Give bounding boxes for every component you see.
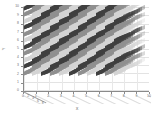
x-axis-tick-label: 8	[119, 95, 128, 98]
y-axis-tick-label: 1	[10, 81, 19, 84]
x-axis-title: X	[0, 107, 154, 111]
y-axis-tick-label: 9	[10, 14, 19, 17]
x-axis-tick-label: 3	[56, 95, 65, 98]
y-axis-tick	[21, 7, 23, 8]
x-axis-tick-label: 4	[69, 95, 78, 98]
x-axis-tick-label: 10	[145, 95, 154, 98]
depth-axis-tick-label: 8	[38, 102, 47, 105]
y-axis-tick-label: 7	[10, 31, 19, 34]
y-axis-tick	[21, 57, 23, 58]
y-axis-tick	[21, 32, 23, 33]
x-axis-tick-label: 6	[94, 95, 103, 98]
y-axis-tick-label: 0	[10, 89, 19, 92]
x-axis-tick-label: 5	[82, 95, 91, 98]
figure-canvas: 0123456789100123456789102468 X Y	[0, 0, 154, 117]
y-axis-tick	[21, 49, 23, 50]
y-axis-line	[23, 7, 24, 91]
x-axis-tick-label: 9	[132, 95, 141, 98]
y-axis-tick-label: 6	[10, 39, 19, 42]
y-axis-title: Y	[2, 42, 6, 56]
y-axis-tick-label: 2	[10, 73, 19, 76]
y-axis-tick	[21, 41, 23, 42]
y-axis-tick-label: 3	[10, 64, 19, 67]
x-axis-tick-label: 7	[107, 95, 116, 98]
y-axis-tick	[21, 83, 23, 84]
y-axis-tick-label: 4	[10, 56, 19, 59]
bar-3d	[23, 69, 30, 76]
y-axis-tick-label: 8	[10, 22, 19, 25]
y-axis-tick-label: 10	[10, 5, 19, 8]
y-axis-tick	[21, 15, 23, 16]
bar3-bars	[22, 5, 152, 93]
y-axis-tick-label: 5	[10, 47, 19, 50]
x-axis-tick-label: 2	[44, 95, 53, 98]
y-axis-tick	[21, 74, 23, 75]
y-axis-tick	[21, 24, 23, 25]
y-axis-tick	[21, 66, 23, 67]
